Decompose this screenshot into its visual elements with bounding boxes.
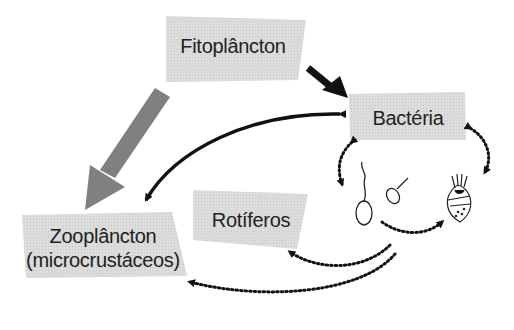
- grey-arrow: [85, 88, 170, 210]
- dotted-flagellates-ciliate: [382, 222, 442, 233]
- flagellate-small-icon: [384, 178, 408, 206]
- zooplancton-label: Zooplâncton (microcrustáceos): [22, 224, 184, 272]
- dotted-protozoa-rotiferos: [290, 245, 390, 266]
- flagellate-large-icon: [356, 162, 372, 225]
- curved-arrow-bacteria-zooplancton: [146, 114, 340, 200]
- black-arrow-fito-bacteria: [308, 68, 348, 98]
- zooplancton-label-line1: Zooplâncton: [22, 224, 184, 248]
- rotiferos-label: Rotíferos: [196, 208, 306, 232]
- dotted-bacteria-flagellates: [339, 142, 352, 184]
- fitoplancton-label: Fitoplâncton: [168, 34, 298, 58]
- ciliate-icon: [447, 174, 470, 222]
- dotted-protozoa-zooplancton: [190, 254, 395, 292]
- zooplancton-label-line2: (microcrustáceos): [22, 248, 184, 272]
- dotted-bacteria-ciliate: [470, 128, 489, 172]
- bacteria-label: Bactéria: [352, 106, 464, 130]
